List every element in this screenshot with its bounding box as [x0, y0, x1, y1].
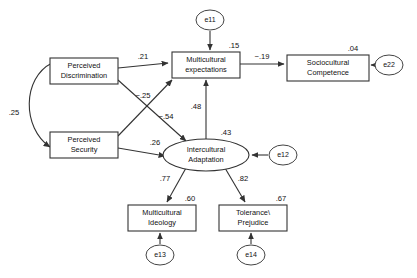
node-sociocultural-competence[interactable]: Sociocultural Competence: [287, 55, 369, 81]
node-perceived-discrimination[interactable]: Perceived Discrimination: [50, 58, 118, 84]
r2-multicultural-expectations: .15: [229, 41, 240, 50]
coef-security-to-adaptation: .26: [150, 138, 161, 147]
error-label-e12: e12: [277, 151, 289, 158]
coef-adaptation-to-tolerance: .82: [238, 174, 249, 183]
node-label-line1: Multicultural: [186, 55, 226, 64]
r2-multicultural-ideology: .60: [185, 194, 196, 203]
node-tolerance-prejudice[interactable]: Tolerance\ Prejudice: [219, 205, 287, 231]
error-label-e14: e14: [245, 251, 257, 258]
diagram-canvas: Perceived Discrimination Perceived Secur…: [0, 0, 417, 278]
node-label-line2: Security: [71, 145, 98, 154]
error-node-e12[interactable]: e12: [269, 145, 297, 165]
coef-discrimination-security-covariance: .25: [9, 108, 20, 117]
coef-adaptation-to-expectations: .48: [191, 102, 202, 111]
node-label-line2: expectations: [185, 65, 227, 74]
error-label-e22: e22: [383, 61, 395, 68]
coef-discrimination-to-adaptation: −.25: [136, 91, 151, 100]
error-node-e11[interactable]: e11: [196, 10, 224, 30]
sem-path-diagram: Perceived Discrimination Perceived Secur…: [0, 0, 417, 278]
r2-tolerance-prejudice: .67: [276, 194, 287, 203]
r2-sociocultural-competence: .04: [348, 44, 359, 53]
r2-intercultural-adaptation: .43: [221, 128, 232, 137]
error-node-e13[interactable]: e13: [146, 245, 174, 265]
node-label-line1: Sociocultural: [307, 58, 350, 67]
node-label-line1: Multicultural: [142, 208, 182, 217]
node-label-line2: Discrimination: [61, 71, 107, 80]
edge-security-to-adaptation: [118, 148, 165, 156]
node-label-line2: Ideology: [148, 218, 176, 227]
coef-discrimination-to-expectations: .21: [138, 52, 149, 61]
node-label-line2: Adaptation: [188, 155, 223, 164]
node-label-line1: Perceived: [68, 135, 101, 144]
coef-adaptation-to-ideology: .77: [160, 174, 171, 183]
edge-discrimination-to-adaptation: [118, 80, 186, 141]
node-label-line1: Intercultural: [187, 145, 226, 154]
error-node-e22[interactable]: e22: [375, 55, 403, 75]
node-label-line1: Tolerance\: [236, 208, 271, 217]
error-label-e13: e13: [154, 251, 166, 258]
node-perceived-security[interactable]: Perceived Security: [50, 132, 118, 158]
node-label-line1: Perceived: [68, 61, 101, 70]
coef-security-to-expectations: −.54: [159, 112, 174, 121]
node-label-line2: Competence: [307, 68, 349, 77]
node-multicultural-ideology[interactable]: Multicultural Ideology: [128, 205, 196, 231]
edge-discrimination-security-covariance: [29, 63, 52, 147]
node-intercultural-adaptation[interactable]: Intercultural Adaptation: [163, 139, 249, 171]
coef-expectations-to-competence: −.19: [255, 52, 270, 61]
error-label-e11: e11: [204, 16, 215, 23]
edge-discrimination-to-expectations: [118, 63, 168, 68]
edge-security-to-expectations: [118, 80, 172, 136]
node-multicultural-expectations[interactable]: Multicultural expectations: [172, 52, 240, 78]
error-node-e14[interactable]: e14: [237, 245, 265, 265]
node-label-line2: Prejudice: [238, 218, 269, 227]
